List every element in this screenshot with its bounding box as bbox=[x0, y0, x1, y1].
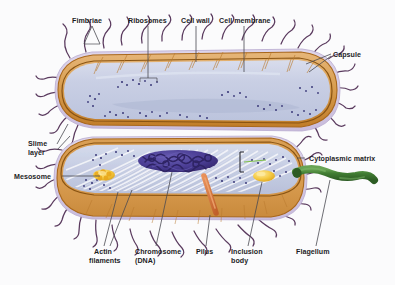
label-chromosome-line2: (DNA) bbox=[135, 257, 155, 266]
figure-canvas: Fimbriae Ribosomes Cell wall Cell membra… bbox=[0, 0, 395, 285]
label-actin-filaments-line2: filaments bbox=[89, 257, 121, 266]
label-flagellum: Flagellum bbox=[296, 248, 330, 257]
label-inclusion-body-line2: body bbox=[231, 257, 248, 266]
inclusion-body bbox=[253, 170, 275, 182]
label-actin-filaments-line1: Actin bbox=[94, 248, 112, 257]
label-ribosomes: Ribosomes bbox=[128, 17, 167, 26]
label-capsule: Capsule bbox=[333, 51, 361, 60]
label-inclusion-body-line1: Inclusion bbox=[231, 248, 263, 257]
lower-cell bbox=[54, 136, 307, 224]
label-pilus: Pilus bbox=[196, 248, 213, 257]
label-cell-wall: Cell wall bbox=[181, 17, 210, 26]
bacterial-cell-diagram bbox=[0, 0, 395, 285]
chromosome-dna bbox=[138, 150, 218, 172]
label-slime-layer-line1: Slime bbox=[28, 140, 47, 149]
label-fimbriae: Fimbriae bbox=[72, 17, 102, 26]
label-mesosome: Mesosome bbox=[14, 173, 51, 182]
label-chromosome-line1: Chromosome bbox=[135, 248, 181, 257]
label-slime-layer-line2: layer bbox=[28, 149, 45, 158]
upper-cell bbox=[55, 49, 340, 131]
label-cell-membrane: Cell membrane bbox=[219, 17, 271, 26]
label-cytoplasmic-matrix: Cytoplasmic matrix bbox=[309, 155, 375, 164]
